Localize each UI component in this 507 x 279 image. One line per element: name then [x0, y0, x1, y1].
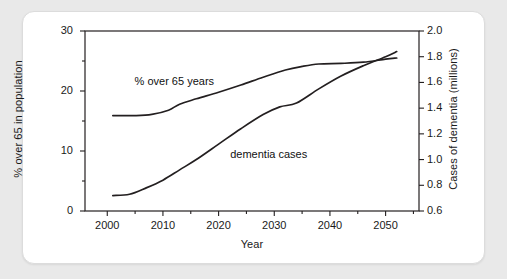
y-right-tick-1.0: 1.0 [427, 153, 461, 165]
y-right-tick-2.0: 2.0 [427, 24, 461, 36]
y-right-tick-1.8: 1.8 [427, 50, 461, 62]
y-right-tick-1.4: 1.4 [427, 101, 461, 113]
y-left-tick-30: 30 [39, 24, 73, 36]
y-left-tick-10: 10 [39, 144, 73, 156]
x-tick-2010: 2010 [141, 219, 185, 231]
chart-plot: % over 65 in population Cases of dementi… [0, 0, 507, 279]
y-left-tick-20: 20 [39, 84, 73, 96]
y-right-tick-0.6: 0.6 [427, 204, 461, 216]
series-line-dementia-cases [113, 52, 397, 196]
x-tick-2040: 2040 [308, 219, 352, 231]
y-left-tick-0: 0 [39, 204, 73, 216]
series-annotation-dementia-cases: dementia cases [230, 148, 307, 160]
x-tick-2020: 2020 [197, 219, 241, 231]
y-right-tick-1.6: 1.6 [427, 75, 461, 87]
axis-ticks [80, 31, 424, 216]
y-right-tick-0.8: 0.8 [427, 178, 461, 190]
y-right-tick-1.2: 1.2 [427, 127, 461, 139]
x-axis-title: Year [85, 238, 419, 250]
x-tick-2030: 2030 [252, 219, 296, 231]
y-axis-left-title: % over 65 in population [12, 39, 24, 199]
x-tick-2000: 2000 [85, 219, 129, 231]
series-annotation-percent-over-65: % over 65 years [135, 75, 214, 87]
x-tick-2050: 2050 [364, 219, 408, 231]
